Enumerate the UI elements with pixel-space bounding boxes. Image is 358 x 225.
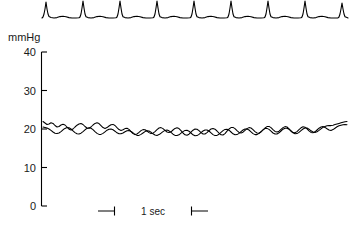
y-axis-label-0: 0 xyxy=(30,200,36,212)
ecg-trace-panel xyxy=(42,1,348,18)
y-axis-unit-label: mmHg xyxy=(8,31,40,43)
y-axis-label-40: 40 xyxy=(24,46,36,58)
ecg-waveform-trace xyxy=(42,1,348,18)
y-axis-label-30: 30 xyxy=(24,85,36,97)
scale-bar-label: 1 sec xyxy=(141,206,165,217)
pressure-trace-panel xyxy=(43,122,347,136)
y-axis xyxy=(42,52,48,206)
scale-bar-right-bracket xyxy=(191,207,208,216)
physiological-recording-figure: mmHg 40 30 20 10 0 1 sec xyxy=(0,0,358,225)
scale-bar-left-bracket xyxy=(98,207,115,216)
time-scale-bar: 1 sec xyxy=(98,206,208,217)
y-axis-label-10: 10 xyxy=(24,162,36,174)
y-axis-label-20: 20 xyxy=(24,123,36,135)
